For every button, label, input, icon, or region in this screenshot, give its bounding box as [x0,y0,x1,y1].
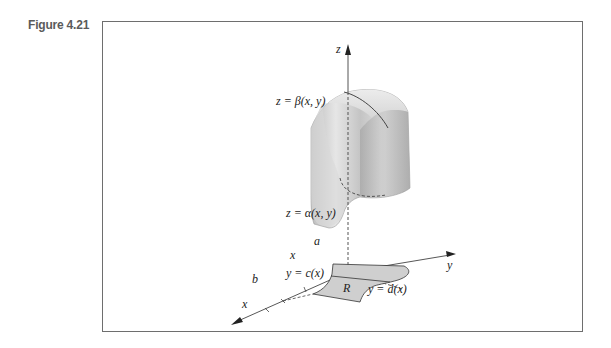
upper-curve-label: y = d(x) [367,282,407,296]
lower-curve-label: y = c(x) [285,266,324,280]
x-axis-label: x [241,297,248,311]
x-tick-label: x [289,248,296,262]
a-label: a [314,234,320,248]
diagram-labels: z = β(x, y) z = α(x, y) a x b y = c(x) R… [0,0,611,348]
top-surface-label: z = β(x, y) [275,94,325,108]
b-label: b [252,272,258,286]
region-label: R [342,281,351,295]
y-axis-label: y [446,258,453,272]
bottom-surface-label: z = α(x, y) [285,206,336,220]
